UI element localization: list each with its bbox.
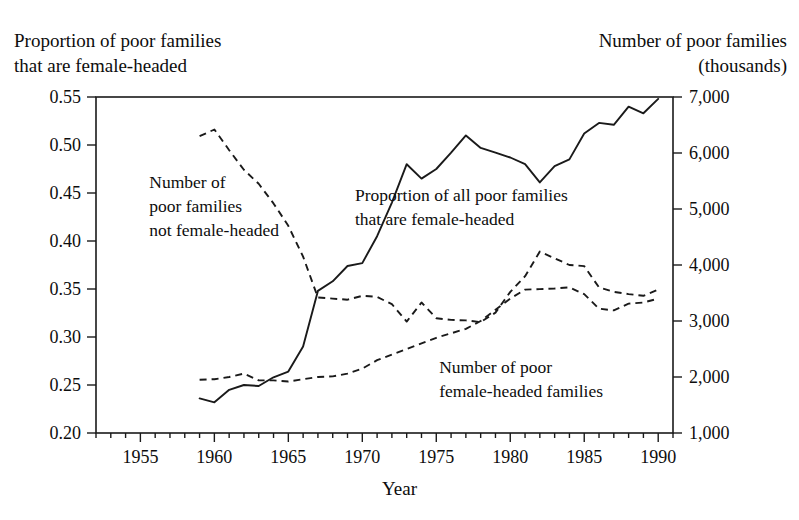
- right-tick-label: 3,000: [689, 311, 730, 331]
- right-tick-label: 2,000: [689, 367, 730, 387]
- left-tick-label: 0.35: [50, 279, 82, 299]
- left-tick-label: 0.55: [50, 87, 82, 107]
- left-tick-label: 0.40: [50, 231, 82, 251]
- x-tick-label: 1985: [566, 447, 602, 467]
- x-tick-label: 1955: [122, 447, 158, 467]
- left-tick-label: 0.30: [50, 327, 82, 347]
- right-tick-label: 6,000: [689, 143, 730, 163]
- right-axis-tick-labels: 7,0006,0005,0004,0003,0002,0001,000: [689, 87, 730, 443]
- right-tick-label: 1,000: [689, 423, 730, 443]
- x-tick-label: 1975: [418, 447, 454, 467]
- left-tick-label: 0.50: [50, 135, 82, 155]
- x-tick-label: 1970: [344, 447, 380, 467]
- right-axis-ticks: [673, 97, 682, 433]
- left-tick-label: 0.20: [50, 423, 82, 443]
- x-axis-ticks: [96, 433, 673, 442]
- chart-annotations: Number ofpoor familiesnot female-headedP…: [149, 172, 603, 400]
- x-tick-label: 1965: [270, 447, 306, 467]
- left-tick-label: 0.25: [50, 375, 82, 395]
- x-tick-label: 1960: [196, 447, 232, 467]
- right-tick-label: 7,000: [689, 87, 730, 107]
- left-axis-tick-labels: 0.550.500.450.400.350.300.250.20: [50, 87, 82, 443]
- chart-root: Proportion of poor families that are fem…: [0, 0, 799, 520]
- data-series-group: [200, 99, 659, 402]
- x-tick-label: 1980: [492, 447, 528, 467]
- chart-plot-area: 19551960196519701975198019851990 0.550.5…: [0, 0, 799, 520]
- right-tick-label: 4,000: [689, 255, 730, 275]
- annotation-poor-female-headed-families: Number of poorfemale-headed families: [439, 357, 603, 401]
- series-line: [200, 99, 659, 402]
- left-tick-label: 0.45: [50, 183, 82, 203]
- x-axis-tick-labels: 19551960196519701975198019851990: [122, 447, 676, 467]
- x-tick-label: 1990: [640, 447, 676, 467]
- series-line: [200, 287, 659, 381]
- annotation-not-female-headed: Number ofpoor familiesnot female-headed: [149, 172, 279, 240]
- annotation-proportion-female-headed: Proportion of all poor familiesthat are …: [355, 185, 568, 229]
- right-tick-label: 5,000: [689, 199, 730, 219]
- left-axis-ticks: [87, 97, 96, 433]
